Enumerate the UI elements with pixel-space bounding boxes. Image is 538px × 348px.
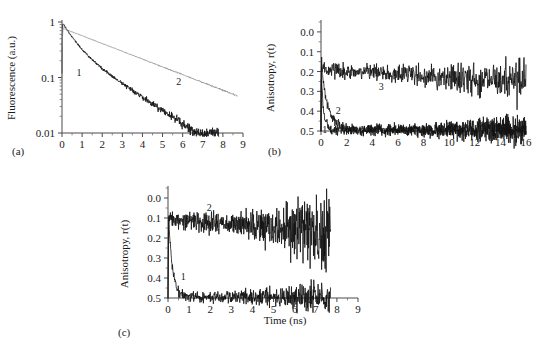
curve-1 [62, 24, 219, 137]
svg-text:9: 9 [355, 303, 361, 315]
svg-text:0.3: 0.3 [300, 85, 314, 97]
svg-text:0.1: 0.1 [147, 212, 161, 224]
panel-b-y-axis-label: Anisotropy, r(t) [264, 44, 277, 113]
panel-c-y-axis-label: Anisotropy, r(t) [118, 220, 131, 289]
svg-text:6: 6 [395, 136, 401, 148]
curve-2 [168, 189, 331, 298]
panel-b-plot: 02468101214160.50.40.30.20.10.0 123 Anis… [258, 0, 538, 172]
svg-text:4: 4 [140, 138, 146, 150]
svg-text:1: 1 [50, 16, 56, 28]
svg-text:0.5: 0.5 [300, 125, 314, 137]
svg-text:0.2: 0.2 [300, 66, 314, 78]
svg-text:0.4: 0.4 [147, 272, 161, 284]
panel-a-y-axis-label: Fluorescence (a.u.) [5, 36, 18, 120]
multi-panel-figure: 012345678910.10.01 12 Fluorescence (a.u.… [0, 0, 538, 348]
svg-text:0: 0 [165, 303, 171, 315]
svg-text:0: 0 [59, 138, 65, 150]
svg-text:5: 5 [160, 138, 166, 150]
curve-label-1: 1 [77, 67, 82, 78]
svg-text:0.0: 0.0 [300, 26, 314, 38]
svg-text:3: 3 [120, 138, 126, 150]
svg-text:0.5: 0.5 [147, 292, 161, 304]
svg-text:4: 4 [250, 303, 256, 315]
svg-text:0.0: 0.0 [147, 192, 161, 204]
panel-b: 02468101214160.50.40.30.20.10.0 123 Anis… [258, 0, 538, 172]
svg-text:4: 4 [370, 136, 376, 148]
svg-text:0.4: 0.4 [300, 105, 314, 117]
svg-text:7: 7 [200, 138, 206, 150]
curve-label-2: 2 [336, 105, 341, 116]
panel-c-curves: 12 [168, 189, 331, 314]
svg-text:12: 12 [469, 136, 480, 148]
curve-3 [321, 56, 526, 131]
svg-text:2: 2 [207, 303, 213, 315]
svg-text:0: 0 [318, 136, 324, 148]
svg-text:3: 3 [229, 303, 235, 315]
panel-a-letter: (a) [12, 145, 25, 158]
curve-label-1: 1 [181, 271, 186, 282]
panel-a-plot: 012345678910.10.01 12 Fluorescence (a.u.… [0, 0, 262, 172]
curve-2 [62, 28, 237, 96]
curve-label-3: 3 [379, 81, 384, 92]
svg-text:1: 1 [79, 138, 85, 150]
svg-text:0.01: 0.01 [36, 127, 55, 139]
svg-text:6: 6 [180, 138, 186, 150]
svg-text:8: 8 [334, 303, 340, 315]
svg-text:8: 8 [220, 138, 226, 150]
svg-text:0.3: 0.3 [147, 252, 161, 264]
svg-text:7: 7 [313, 303, 319, 315]
svg-text:9: 9 [240, 138, 246, 150]
svg-text:2: 2 [344, 136, 350, 148]
curve-label-1: 1 [322, 124, 327, 135]
svg-text:0.1: 0.1 [41, 72, 55, 84]
svg-text:8: 8 [421, 136, 427, 148]
svg-text:1: 1 [186, 303, 192, 315]
curve-label-2: 2 [207, 202, 212, 213]
panel-a-curves: 12 [62, 24, 237, 137]
panel-b-letter: (b) [268, 145, 281, 158]
svg-text:0.1: 0.1 [300, 46, 314, 58]
panel-a: 012345678910.10.01 12 Fluorescence (a.u.… [0, 0, 262, 172]
page-bleed-through [0, 322, 538, 348]
svg-text:2: 2 [99, 138, 105, 150]
svg-text:0.2: 0.2 [147, 232, 161, 244]
curve-label-2: 2 [176, 76, 181, 87]
